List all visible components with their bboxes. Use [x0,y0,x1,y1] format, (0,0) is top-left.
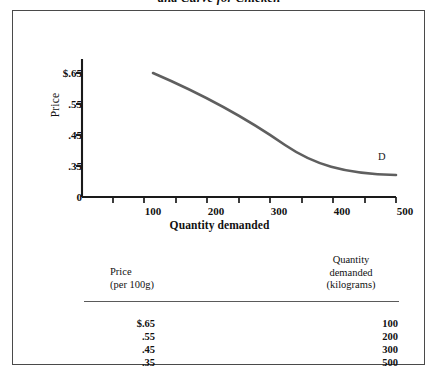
figure-caption: and Curve for Chicken [0,0,438,9]
y-tick-label-0: 0 [42,191,82,203]
table-header-quantity-line1: Quantity [303,254,399,267]
cell-quantity: 200 [338,331,398,342]
y-tick-label-065: $.65 [42,67,82,79]
figure-root: and Curve for Chicken [0,0,438,378]
demand-curve-label: D [378,151,386,162]
table-header-price-line2: (per 100g) [110,279,154,292]
table-header-quantity-line2: demanded [303,267,399,280]
cell-quantity: 500 [338,357,398,368]
y-tick-label-055: .55 [42,98,82,110]
x-tick-label-500: 500 [385,205,425,217]
demand-curve-line [153,73,396,175]
cell-price: $.65 [95,318,155,329]
cell-quantity: 300 [338,344,398,355]
cell-price: .55 [95,331,155,342]
x-tick-label-200: 200 [196,205,236,217]
demand-schedule-table: Price (per 100g) Quantity demanded (kilo… [13,246,426,364]
x-tick-label-100: 100 [133,205,173,217]
cell-price: .35 [95,357,155,368]
x-axis-title: Quantity demanded [13,219,426,231]
y-tick-label-045: .45 [42,129,82,141]
table-header-quantity: Quantity demanded (kilograms) [303,254,399,292]
figure-frame: Price $.65 .55 .45 .35 0 100 200 300 400… [12,10,425,365]
x-tick-label-400: 400 [322,205,362,217]
cell-quantity: 100 [338,318,398,329]
x-tick-label-300: 300 [259,205,299,217]
table-header-quantity-line3: (kilograms) [303,279,399,292]
demand-curve-chart: Price $.65 .55 .45 .35 0 100 200 300 400… [13,11,426,236]
table-header-rule [84,301,399,302]
y-tick-label-035: .35 [42,160,82,172]
cell-price: .45 [95,344,155,355]
table-header-price: Price (per 100g) [110,266,154,291]
table-header-price-line1: Price [110,266,154,279]
